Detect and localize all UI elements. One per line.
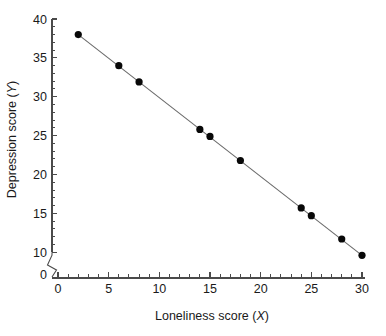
data-point xyxy=(135,78,142,85)
data-point xyxy=(308,212,315,219)
chart-canvas: 101520253035400051015202530Loneliness sc… xyxy=(0,0,386,336)
data-point xyxy=(75,31,82,38)
x-axis-title: Loneliness score (X) xyxy=(155,309,269,323)
y-axis-title: Depression score (Y) xyxy=(5,81,19,198)
y-axis-break-icon xyxy=(48,252,57,277)
x-axis-tick-label: 10 xyxy=(152,282,166,296)
x-axis-tick-label: 5 xyxy=(105,282,112,296)
y-axis-tick-label: 20 xyxy=(33,168,47,182)
scatter-plot-figure: 101520253035400051015202530Loneliness sc… xyxy=(0,0,386,336)
data-point xyxy=(358,252,365,259)
data-point xyxy=(338,235,345,242)
y-axis-tick-label: 25 xyxy=(33,129,47,143)
x-axis-tick-label: 0 xyxy=(55,282,62,296)
y-axis-tick-label: 40 xyxy=(33,13,47,27)
data-point xyxy=(115,62,122,69)
x-axis-tick-label: 25 xyxy=(304,282,318,296)
data-point xyxy=(298,204,305,211)
data-point xyxy=(196,126,203,133)
data-point xyxy=(237,157,244,164)
y-axis-origin-label: 0 xyxy=(40,268,47,282)
y-axis-tick-label: 10 xyxy=(33,246,47,260)
y-axis-tick-label: 35 xyxy=(33,51,47,65)
x-axis-tick-label: 15 xyxy=(203,282,217,296)
y-axis-tick-label: 15 xyxy=(33,207,47,221)
x-axis-tick-label: 30 xyxy=(355,282,369,296)
data-point xyxy=(206,133,213,140)
y-axis-tick-label: 30 xyxy=(33,90,47,104)
x-axis-tick-label: 20 xyxy=(254,282,268,296)
